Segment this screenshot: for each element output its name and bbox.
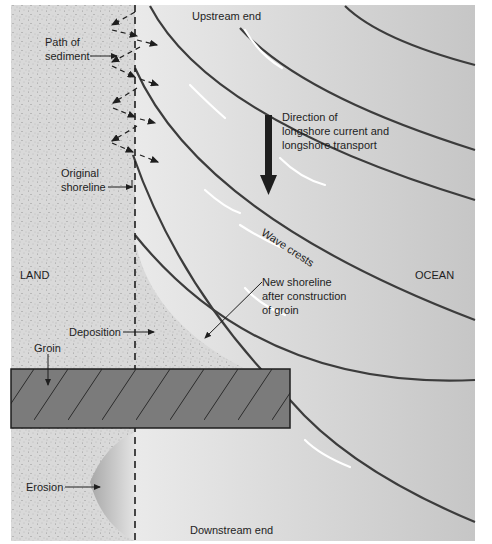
- new-shoreline-label-1: New shoreline: [262, 276, 332, 289]
- direction-label-1: Direction of: [282, 111, 338, 124]
- original-shoreline-label-2: shoreline: [61, 181, 106, 194]
- ocean-label: OCEAN: [415, 269, 454, 282]
- land-label: LAND: [20, 269, 49, 282]
- groin-label: Groin: [34, 342, 61, 355]
- deposition-label: Deposition: [69, 326, 121, 339]
- path-of-sediment-label-2: sediment: [45, 50, 90, 63]
- longshore-groin-diagram: Upstream end Downstream end LAND OCEAN P…: [0, 0, 492, 544]
- groin-structure: [11, 369, 290, 428]
- path-of-sediment-label-1: Path of: [45, 36, 80, 49]
- upstream-end-label: Upstream end: [192, 10, 261, 23]
- downstream-end-label: Downstream end: [190, 524, 273, 537]
- erosion-label: Erosion: [26, 481, 63, 494]
- direction-label-3: longshore transport: [282, 139, 377, 152]
- direction-label-2: longshore current and: [282, 125, 389, 138]
- new-shoreline-label-2: after construction: [262, 290, 346, 303]
- new-shoreline-label-3: of groin: [262, 304, 299, 317]
- original-shoreline-label-1: Original: [61, 167, 99, 180]
